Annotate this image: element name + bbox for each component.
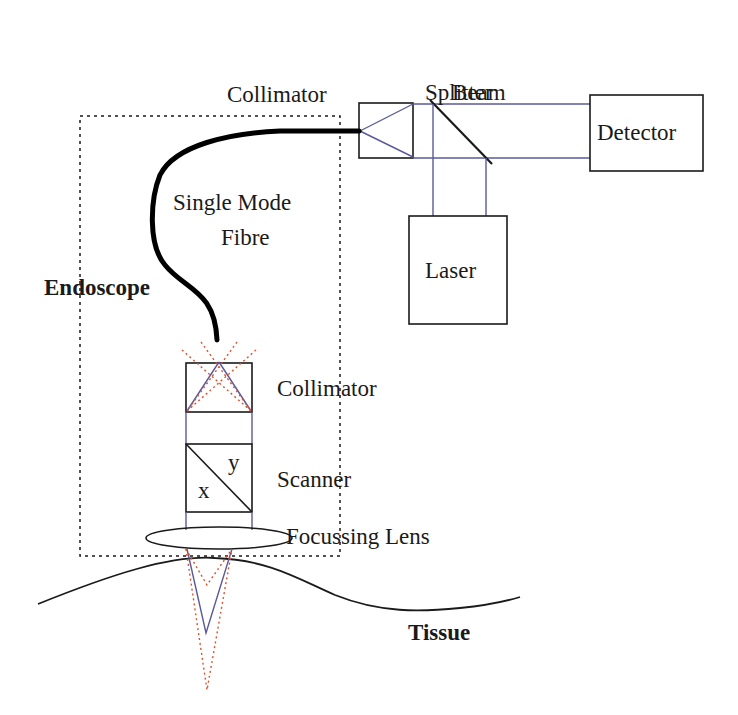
tissue-surface [38, 558, 520, 611]
label-collimator-top: Collimator [227, 82, 327, 107]
endoscope-system-diagram: Beam Splitter Collimator Detector Laser … [0, 0, 738, 715]
label-focussing-lens: Focussing Lens [286, 524, 430, 549]
top-collimator [359, 103, 413, 158]
label-scanner: Scanner [277, 467, 351, 492]
label-fibre: Fibre [221, 225, 270, 250]
label-collimator-bottom: Collimator [277, 376, 377, 401]
label-detector: Detector [597, 120, 677, 145]
scanner [186, 444, 252, 512]
focussing-lens [146, 527, 292, 549]
label-tissue: Tissue [408, 620, 470, 645]
label-scanner-x: x [198, 478, 210, 503]
label-endoscope: Endoscope [44, 275, 150, 300]
beam-splitter-mirror [430, 100, 492, 164]
bottom-collimator [182, 342, 256, 412]
scan-beam-shallow [186, 549, 232, 585]
label-single-mode: Single Mode [173, 190, 291, 215]
label-scanner-y: y [228, 450, 240, 475]
focused-beam [187, 549, 232, 633]
label-splitter: Splitter [425, 80, 493, 105]
label-laser: Laser [425, 258, 476, 283]
